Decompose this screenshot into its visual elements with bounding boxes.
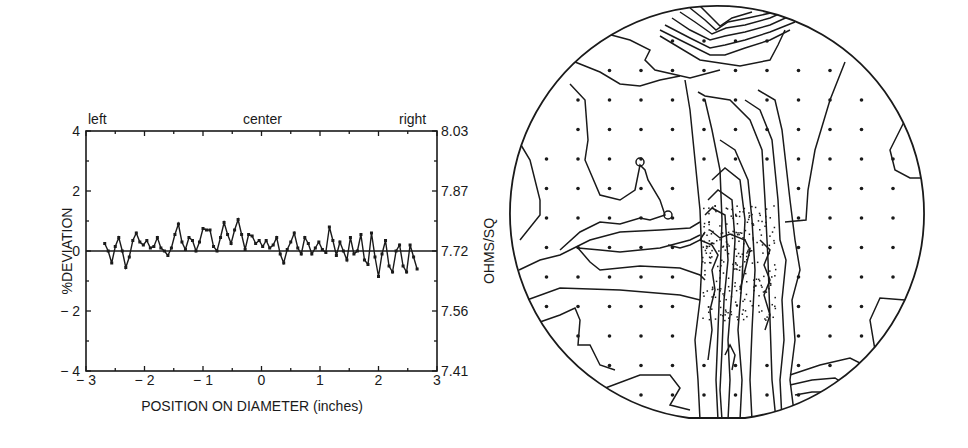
x-tick-label: 1 bbox=[316, 372, 324, 388]
figure: left center right 420− 2− 4 8.037.877.72… bbox=[0, 0, 968, 448]
y2-tick-label: 7.41 bbox=[441, 363, 468, 379]
y2-tick-label: 7.72 bbox=[441, 243, 468, 259]
deviation-chart: left center right 420− 2− 4 8.037.877.72… bbox=[0, 0, 968, 448]
x-tick-labels: − 3− 2− 10123 bbox=[76, 372, 441, 388]
y2-tick-label: 7.87 bbox=[441, 183, 468, 199]
y2-axis-title: OHMS/SQ bbox=[481, 218, 497, 284]
x-tick-label: − 1 bbox=[193, 372, 213, 388]
label-left: left bbox=[88, 111, 107, 127]
y-axis-title: %DEVIATION bbox=[59, 208, 75, 295]
wafer-contour-map bbox=[510, 6, 930, 420]
y-tick-label: − 2 bbox=[60, 303, 80, 319]
label-center: center bbox=[243, 111, 282, 127]
x-tick-label: 0 bbox=[258, 372, 266, 388]
label-right: right bbox=[399, 111, 426, 127]
deviation-series-markers bbox=[103, 218, 418, 278]
x-tick-label: − 2 bbox=[135, 372, 155, 388]
y-tick-label: 4 bbox=[72, 123, 80, 139]
x-tick-label: − 3 bbox=[76, 372, 96, 388]
y2-tick-label: 7.56 bbox=[441, 303, 468, 319]
y2-tick-labels: 8.037.877.727.567.41 bbox=[441, 123, 468, 379]
x-axis-title: POSITION ON DIAMETER (inches) bbox=[141, 398, 363, 414]
y2-tick-label: 8.03 bbox=[441, 123, 468, 139]
y-tick-label: 2 bbox=[72, 183, 80, 199]
x-tick-label: 2 bbox=[375, 372, 383, 388]
x-tick-label: 3 bbox=[433, 372, 441, 388]
